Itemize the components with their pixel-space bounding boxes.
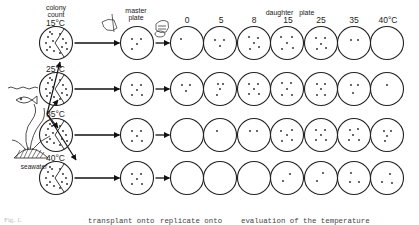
colony-dot <box>325 139 327 141</box>
colony-dot <box>253 42 255 44</box>
colony-dot <box>62 173 64 175</box>
daughter-plate <box>338 27 371 60</box>
colony-dot <box>350 172 352 174</box>
master-plate-header: master plate <box>120 7 152 21</box>
colony-dot <box>248 83 250 85</box>
daughter-temp-25: 25 <box>311 15 331 25</box>
colony-dot <box>65 134 67 136</box>
colony-dot <box>315 37 317 39</box>
colony-dot <box>281 82 283 84</box>
colony-dot <box>131 130 133 132</box>
master-plate-header-line1: master <box>120 7 152 14</box>
colony-dot <box>66 48 68 50</box>
colony-dot <box>61 46 63 48</box>
colony-dot <box>49 92 51 94</box>
colony-dot <box>61 181 63 183</box>
isolation-plate <box>40 119 73 152</box>
colony-dot <box>131 48 133 50</box>
colony-dot <box>59 98 61 100</box>
colony-dot <box>352 134 354 136</box>
colony-dot <box>61 92 63 94</box>
colony-dot <box>315 129 317 131</box>
colony-dot <box>49 46 51 48</box>
colony-dot <box>257 83 259 85</box>
colony-dot <box>59 168 61 170</box>
colony-dot <box>291 94 293 96</box>
daughter-plate <box>371 119 404 152</box>
daughter-temp-0: 0 <box>177 15 197 25</box>
colony-dot <box>281 140 283 142</box>
colony-dot <box>66 140 68 142</box>
daughter-plate <box>338 162 371 195</box>
colony-dot <box>222 83 224 85</box>
colony-dot <box>51 79 53 81</box>
colony-dot <box>46 141 48 143</box>
colony-dot <box>51 33 53 35</box>
colony-dot <box>47 128 49 130</box>
daughter-plate <box>204 27 237 60</box>
colony-dot <box>52 132 54 134</box>
daughter-plate <box>371 73 404 106</box>
colony-dot <box>136 178 138 180</box>
colony-dot <box>189 84 191 86</box>
isolation-temp-15: 15°C <box>46 18 65 28</box>
daughter-plate <box>171 73 204 106</box>
colony-dot <box>65 42 67 44</box>
colony-dot <box>219 45 221 47</box>
colony-dot <box>45 42 47 44</box>
colony-dot <box>253 88 255 90</box>
colony-dot <box>386 84 388 86</box>
colony-dot <box>349 181 351 183</box>
isolation-temp-40: 40°C <box>46 153 65 163</box>
seawater-label: seawater <box>14 163 54 170</box>
colony-dot <box>280 36 282 38</box>
colony-dot <box>286 134 288 136</box>
colony-dot <box>315 139 317 141</box>
colony-dot <box>59 52 61 54</box>
daughter-plate <box>238 162 271 195</box>
colony-dot <box>289 173 291 175</box>
colony-dot <box>53 185 55 187</box>
colony-dot <box>59 33 61 35</box>
colony-dot <box>389 173 391 175</box>
colony-dot <box>257 37 259 39</box>
colony-dot <box>180 38 182 40</box>
daughter-plate <box>371 27 404 60</box>
colony-dot <box>49 138 51 140</box>
colony-dot <box>320 43 322 45</box>
daughter-temp-35: 35 <box>344 15 364 25</box>
colony-dot <box>258 46 260 48</box>
colony-dot <box>66 94 68 96</box>
colony-dot <box>280 130 282 132</box>
colony-dot <box>390 130 392 132</box>
caption-replicate-line1: replicate onto <box>160 217 227 225</box>
daughter-plate <box>171 162 204 195</box>
colony-dot <box>352 92 354 94</box>
colony-dot <box>256 130 258 132</box>
colony-dot <box>324 37 326 39</box>
colony-dot <box>286 42 288 44</box>
colony-dot <box>62 84 64 86</box>
colony-dot <box>249 48 251 50</box>
daughter-temp-15: 15 <box>278 15 298 25</box>
colony-dot <box>59 144 61 146</box>
daughter-temp-40: 40°C <box>374 15 402 25</box>
colony-dot <box>381 181 383 183</box>
colony-dot <box>258 93 260 95</box>
colony-dot <box>52 40 54 42</box>
daughter-plate <box>171 119 204 152</box>
colony-dot <box>325 47 327 49</box>
colony-dot <box>131 183 133 185</box>
colony-dot <box>53 50 55 52</box>
colony-dot <box>358 181 360 183</box>
colony-dot <box>216 94 218 96</box>
colony-dot <box>349 129 351 131</box>
colony-dot <box>386 135 388 137</box>
colony-dot <box>358 139 360 141</box>
colony-dot <box>217 83 219 85</box>
master-plate-header-line2: plate <box>120 14 152 21</box>
daughter-temp-8: 8 <box>244 15 264 25</box>
colony-dot <box>140 38 142 40</box>
colony-dot <box>281 48 283 50</box>
colony-dot <box>316 83 318 85</box>
